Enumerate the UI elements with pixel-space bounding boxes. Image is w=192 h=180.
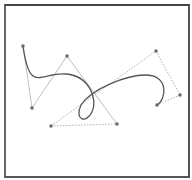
handle-lines	[23, 46, 180, 126]
control-point-p1[interactable]	[31, 107, 34, 110]
control-point-p5[interactable]	[155, 50, 158, 53]
control-point-p3[interactable]	[116, 123, 119, 126]
bezier-canvas[interactable]	[0, 0, 192, 180]
handle-line	[51, 124, 117, 126]
handle-line	[157, 95, 180, 105]
control-point-p2[interactable]	[66, 55, 69, 58]
handle-line	[51, 51, 156, 126]
handle-line	[156, 51, 180, 95]
control-point-p0[interactable]	[22, 45, 25, 48]
handle-line	[32, 56, 67, 108]
control-point-p4[interactable]	[50, 125, 53, 128]
control-point-p6[interactable]	[179, 94, 182, 97]
handle-line	[67, 56, 117, 124]
bezier-curve[interactable]	[23, 46, 164, 119]
control-point-p7[interactable]	[156, 104, 159, 107]
control-points[interactable]	[22, 45, 182, 128]
